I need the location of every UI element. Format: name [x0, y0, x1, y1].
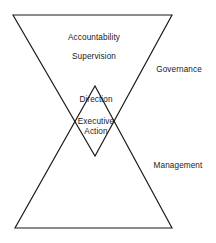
- label-direction: Direction: [79, 95, 112, 105]
- label-executive: Executive: [78, 117, 114, 127]
- upward-triangle-management: [15, 86, 172, 228]
- label-management: Management: [154, 161, 203, 171]
- label-supervision: Supervision: [72, 52, 116, 62]
- label-governance: Governance: [156, 65, 202, 75]
- label-accountability: Accountability: [68, 33, 120, 43]
- diagram-canvas: Accountability Supervision Direction Exe…: [0, 0, 216, 243]
- label-action: Action: [84, 127, 107, 137]
